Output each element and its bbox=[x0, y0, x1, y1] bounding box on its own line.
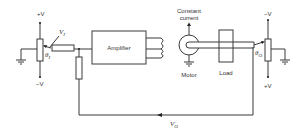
input-voltage-label: VI bbox=[59, 28, 65, 37]
feedback-arrow-icon bbox=[157, 113, 162, 117]
supply-terminal-icon bbox=[267, 76, 269, 78]
output-pot-resistor-icon bbox=[265, 39, 271, 61]
servo-schematic: +V −V VI θI Amplifier bbox=[0, 0, 308, 133]
amplifier-block: Amplifier bbox=[92, 31, 163, 64]
output-potentiometer: −V +V θO bbox=[253, 11, 290, 115]
field-coil-icon bbox=[161, 38, 163, 58]
ground-icon bbox=[184, 62, 194, 66]
motor-supply-label-2: current bbox=[180, 15, 199, 21]
ground-icon bbox=[280, 60, 290, 64]
feedback-voltage-label: VO bbox=[170, 120, 178, 129]
input-pot-resistor-icon bbox=[37, 39, 43, 61]
input-pot-bottom-supply: −V bbox=[36, 81, 44, 87]
output-pot-bottom-supply: +V bbox=[264, 83, 272, 89]
input-angle-label: θI bbox=[45, 51, 50, 60]
summing-resistor-icon bbox=[76, 57, 82, 79]
amplifier-label: Amplifier bbox=[107, 45, 130, 51]
ground-icon bbox=[16, 60, 26, 64]
input-pot-top-supply: +V bbox=[37, 11, 45, 17]
wiper-arrowhead-icon bbox=[261, 41, 265, 44]
motor-supply-label-1: Constant bbox=[177, 8, 201, 14]
feedback-path: VO bbox=[79, 113, 253, 129]
load: Load bbox=[219, 30, 233, 76]
current-arrow-icon bbox=[187, 23, 191, 27]
wiper-arrowhead-icon bbox=[43, 45, 47, 48]
input-potentiometer: +V −V VI θI bbox=[16, 11, 74, 87]
input-shaft-icon bbox=[52, 45, 74, 51]
supply-terminal-icon bbox=[39, 76, 41, 78]
output-pot-top-supply: −V bbox=[264, 11, 272, 17]
load-label: Load bbox=[219, 70, 232, 76]
output-angle-label: θO bbox=[255, 49, 262, 58]
motor-label: Motor bbox=[181, 72, 196, 78]
